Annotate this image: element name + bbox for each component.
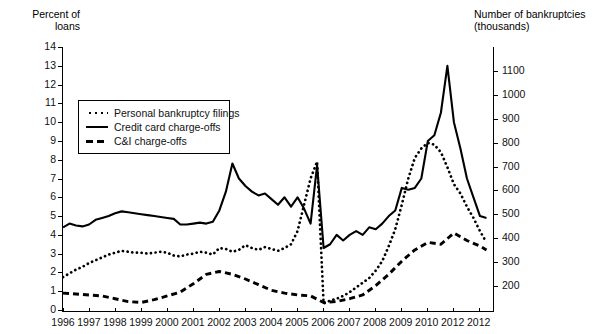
- left-axis-tick-label: 5: [30, 209, 56, 221]
- left-axis-tick-label: 6: [30, 190, 56, 202]
- left-axis-tick-label: 9: [30, 134, 56, 146]
- right-axis-tick-label: 800: [502, 136, 542, 148]
- right-axis-tick-label: 400: [502, 231, 542, 243]
- right-axis-tick-label: 200: [502, 279, 542, 291]
- legend-item[interactable]: C&I charge-offs: [86, 134, 222, 148]
- left-axis-tick-label: 3: [30, 247, 56, 259]
- left-axis-tick-label: 10: [30, 115, 56, 127]
- legend-item-label: C&I charge-offs: [114, 135, 187, 147]
- left-axis-tick-label: 0: [30, 303, 56, 315]
- left-axis-tick-label: 7: [30, 172, 56, 184]
- series-line: [63, 66, 486, 248]
- left-axis-tick-label: 1: [30, 284, 56, 296]
- legend-item-label: Credit card charge-offs: [114, 121, 221, 133]
- x-axis-tick-label: 2012: [459, 316, 499, 328]
- right-axis-tick-label: 1000: [502, 88, 542, 100]
- right-axis-tick-label: 1100: [502, 64, 542, 76]
- right-axis-tick-mark: [494, 119, 498, 120]
- right-axis-tick-mark: [494, 214, 498, 215]
- right-axis-tick-mark: [494, 167, 498, 168]
- right-axis-tick-mark: [494, 71, 498, 72]
- right-axis-tick-mark: [494, 262, 498, 263]
- chart-figure: Percent of loans Number of bankruptcies …: [0, 0, 604, 334]
- left-axis-tick-label: 12: [30, 78, 56, 90]
- right-axis-tick-label: 700: [502, 160, 542, 172]
- chart-legend: Personal bankruptcy filingsCredit card c…: [78, 100, 230, 154]
- right-axis-tick-mark: [494, 143, 498, 144]
- series-line: [63, 233, 486, 303]
- left-axis-tick-label: 13: [30, 59, 56, 71]
- series-canvas: [63, 47, 493, 310]
- legend-item[interactable]: Personal bankruptcy filings: [86, 106, 222, 120]
- dotted-line-key: [86, 107, 108, 119]
- left-axis-tick-label: 8: [30, 153, 56, 165]
- right-axis-tick-mark: [494, 95, 498, 96]
- left-axis-title: Percent of loans: [8, 8, 80, 32]
- left-axis-tick-label: 14: [30, 40, 56, 52]
- plot-area: [62, 47, 494, 312]
- right-axis-tick-mark: [494, 190, 498, 191]
- left-axis-tick-label: 2: [30, 265, 56, 277]
- solid-line-key: [86, 121, 108, 133]
- legend-item-label: Personal bankruptcy filings: [114, 107, 239, 119]
- legend-item[interactable]: Credit card charge-offs: [86, 120, 222, 134]
- right-axis-tick-mark: [494, 286, 498, 287]
- dashed-line-key: [86, 135, 108, 147]
- right-axis-title: Number of bankruptcies (thousands): [474, 8, 602, 32]
- right-axis-tick-mark: [494, 238, 498, 239]
- right-axis-tick-label: 600: [502, 183, 542, 195]
- right-axis-tick-label: 300: [502, 255, 542, 267]
- right-axis-tick-label: 500: [502, 207, 542, 219]
- right-axis-tick-label: 900: [502, 112, 542, 124]
- solid-line-key-bar: [86, 126, 108, 128]
- left-axis-tick-label: 4: [30, 228, 56, 240]
- left-axis-tick-label: 11: [30, 96, 56, 108]
- dashed-line-key-bar: [86, 140, 108, 143]
